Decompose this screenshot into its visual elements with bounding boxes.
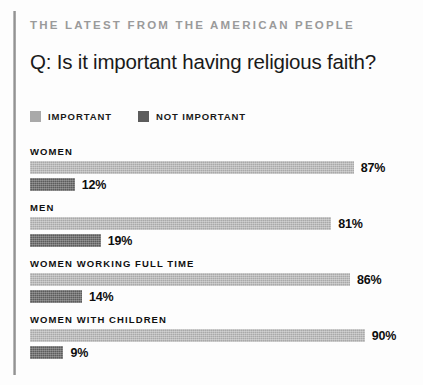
bar-row-not-important: 14% [30,290,415,303]
group-label: WOMEN WORKING FULL TIME [30,258,415,269]
bar-row-important: 90% [30,329,415,342]
bar-value-not-important: 12% [82,178,106,192]
bar-important [30,273,350,286]
chart-legend: IMPORTANT NOT IMPORTANT [30,111,246,122]
bar-row-important: 81% [30,217,415,230]
infographic-panel: THE LATEST FROM THE AMERICAN PEOPLE Q: I… [0,0,423,385]
page-title: Q: Is it important having religious fait… [30,50,376,74]
bar-value-not-important: 9% [70,346,88,360]
bar-value-not-important: 14% [89,290,113,304]
kicker-text: THE LATEST FROM THE AMERICAN PEOPLE [30,19,355,31]
group-label: MEN [30,202,415,213]
bar-row-not-important: 12% [30,178,415,191]
bar-value-important: 90% [372,329,396,343]
bar-value-important: 87% [361,161,385,175]
chart-group: WOMEN 87% 12% [30,146,415,191]
dark-gray-swatch-icon [138,111,149,122]
legend-item-important: IMPORTANT [30,111,112,122]
chart-group: WOMEN WORKING FULL TIME 86% 14% [30,258,415,303]
bar-row-not-important: 19% [30,234,415,247]
bar-not-important [30,346,63,359]
light-gray-swatch-icon [30,111,41,122]
bar-value-important: 81% [338,217,362,231]
infographic-content: THE LATEST FROM THE AMERICAN PEOPLE Q: I… [30,0,415,385]
bar-not-important [30,234,101,247]
bar-important [30,161,354,174]
bar-row-important: 87% [30,161,415,174]
left-vertical-rule [13,11,16,375]
bar-row-important: 86% [30,273,415,286]
chart-group: MEN 81% 19% [30,202,415,247]
group-label: WOMEN [30,146,415,157]
chart-group: WOMEN WITH CHILDREN 90% 9% [30,314,415,359]
legend-label-important: IMPORTANT [48,111,112,122]
chart-groups: WOMEN 87% 12% MEN 81% 19% [30,146,415,370]
bar-important [30,217,331,230]
bar-not-important [30,178,75,191]
bar-row-not-important: 9% [30,346,415,359]
legend-label-not-important: NOT IMPORTANT [156,111,246,122]
bar-not-important [30,290,82,303]
bar-value-not-important: 19% [108,234,132,248]
bar-important [30,329,365,342]
legend-item-not-important: NOT IMPORTANT [138,111,246,122]
bar-value-important: 86% [357,273,381,287]
group-label: WOMEN WITH CHILDREN [30,314,415,325]
